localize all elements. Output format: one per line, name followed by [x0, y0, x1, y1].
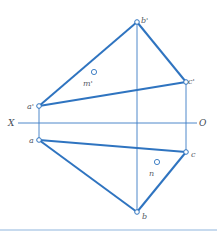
point-m-prime	[91, 69, 96, 74]
edge-b-prime-c-prime	[137, 22, 186, 82]
point-b	[135, 210, 140, 215]
edge-c-b	[137, 152, 186, 212]
point-a	[37, 138, 42, 143]
point-c	[184, 150, 189, 155]
edge-a-b	[39, 140, 137, 212]
axis-label-x: X	[7, 118, 15, 128]
point-n	[154, 159, 159, 164]
label-n: n	[149, 169, 154, 178]
label-a-prime: a'	[27, 102, 34, 111]
edge-a-c	[39, 140, 186, 152]
label-m-prime: m'	[83, 79, 93, 88]
axis-label-o: O	[199, 118, 207, 128]
label-b-prime: b'	[141, 16, 148, 25]
projection-diagram: X O b' c' a' a c b m' n	[0, 0, 217, 237]
label-c-prime: c'	[188, 77, 195, 86]
label-a: a	[29, 136, 34, 145]
point-b-prime	[135, 20, 140, 25]
edge-a-prime-c-prime	[39, 82, 186, 106]
point-a-prime	[37, 104, 42, 109]
label-c: c	[191, 150, 196, 159]
label-b: b	[142, 212, 147, 221]
